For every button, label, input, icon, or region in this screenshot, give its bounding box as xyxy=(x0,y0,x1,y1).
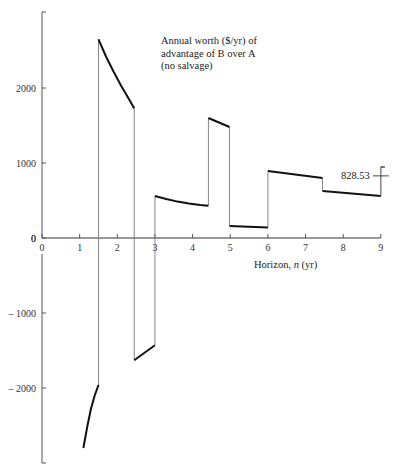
y-tick-label: 1000 xyxy=(16,158,36,169)
marker-value-label: 828.53 xyxy=(341,170,370,181)
x-axis-label-part: Horizon, xyxy=(254,259,294,270)
curve-segment xyxy=(208,118,229,127)
y-tick-label: – 1000 xyxy=(8,308,37,319)
value-marker-828-53: 828.53 xyxy=(341,167,389,196)
annual-worth-chart: 0123456789200010000– 1000– 20000 828.53 … xyxy=(0,0,402,475)
x-tick-label: 0 xyxy=(40,242,45,253)
curve-segment xyxy=(323,191,381,196)
discontinuity-jumps xyxy=(98,39,322,385)
curve-segment xyxy=(155,196,209,206)
x-tick-label: 5 xyxy=(228,242,233,253)
x-tick-label: 4 xyxy=(190,242,195,253)
x-tick-label: 2 xyxy=(115,242,120,253)
y-tick-label: 0 xyxy=(31,233,36,244)
x-tick-label: 9 xyxy=(378,242,383,253)
x-tick-label: 7 xyxy=(303,242,308,253)
x-tick-label: 1 xyxy=(77,242,82,253)
curve-segment xyxy=(268,171,323,178)
curve-segment xyxy=(99,39,135,108)
axes xyxy=(42,12,381,463)
curve-segment xyxy=(134,345,155,360)
curve-segment xyxy=(230,226,268,228)
y-tick-label: 2000 xyxy=(16,83,36,94)
x-tick-label: 6 xyxy=(265,242,270,253)
chart-title: Annual worth ($/yr) ofadvantage of B ove… xyxy=(161,35,257,72)
x-tick-label: 8 xyxy=(341,242,346,253)
curve-segment xyxy=(83,385,98,448)
y-tick-label: – 2000 xyxy=(8,383,37,394)
x-axis-label: Horizon, n (yr) xyxy=(254,259,318,271)
chart-title-line: Annual worth ($/yr) of xyxy=(161,35,257,47)
x-axis-label-part: (yr) xyxy=(299,259,318,271)
chart-title-line: advantage of B over A xyxy=(161,48,256,59)
chart-title-line: (no salvage) xyxy=(161,60,213,72)
